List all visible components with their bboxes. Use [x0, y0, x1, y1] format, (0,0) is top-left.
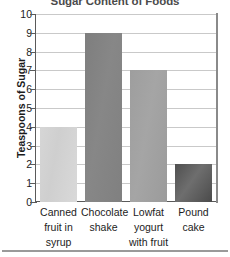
x-axis-label-line: fruit in: [36, 220, 81, 235]
plot-right-border: [216, 13, 218, 203]
bar: [40, 127, 77, 202]
x-axis-label-line: with fruit: [126, 235, 171, 250]
y-axis-tick-labels: 109876543210: [0, 14, 32, 202]
y-tick-label-6: 6: [2, 84, 32, 94]
x-axis-label-line: syrup: [36, 235, 81, 250]
gridline-6: [36, 89, 216, 90]
y-tick-label-7: 7: [2, 65, 32, 75]
gridline-8: [36, 52, 216, 53]
x-axis-label-line: Chocolate: [81, 205, 126, 220]
x-axis-label-line: cake: [171, 220, 216, 235]
x-axis-label-line: Canned: [36, 205, 81, 220]
x-axis-label-line: shake: [81, 220, 126, 235]
x-axis-label: Poundcake: [171, 205, 216, 235]
x-axis-label-line: Lowfat: [126, 205, 171, 220]
bar-chart-figure: Sugar Content of Foods Teaspoons of Suga…: [0, 0, 230, 257]
y-tick-label-8: 8: [2, 47, 32, 57]
y-tick-label-2: 2: [2, 159, 32, 169]
chart-title: Sugar Content of Foods: [0, 0, 230, 8]
bar: [130, 70, 167, 202]
bottom-divider: [2, 250, 228, 252]
y-tick-label-3: 3: [2, 141, 32, 151]
x-axis-tick-labels: Cannedfruit insyrupChocolateshakeLowfaty…: [36, 205, 216, 255]
x-axis-label-line: Pound: [171, 205, 216, 220]
x-axis-label: Cannedfruit insyrup: [36, 205, 81, 250]
gridline-10: [36, 14, 216, 15]
bar: [85, 33, 122, 202]
y-tick-label-1: 1: [2, 178, 32, 188]
plot-area: [36, 14, 216, 202]
y-tick-label-4: 4: [2, 122, 32, 132]
bar: [175, 164, 212, 202]
gridline-9: [36, 33, 216, 34]
y-tick-label-10: 10: [2, 9, 32, 19]
x-axis-label: Chocolateshake: [81, 205, 126, 235]
y-tick-label-9: 9: [2, 28, 32, 38]
x-axis-label-line: yogurt: [126, 220, 171, 235]
gridline-5: [36, 108, 216, 109]
x-axis-label: Lowfatyogurtwith fruit: [126, 205, 171, 250]
y-tick-label-5: 5: [2, 103, 32, 113]
gridline-7: [36, 70, 216, 71]
y-tick-label-0: 0: [2, 197, 32, 207]
